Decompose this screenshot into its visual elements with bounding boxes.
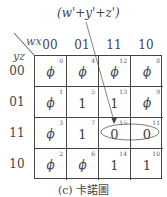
kmap-cell: 2ϕ [35,149,67,180]
row-header: 11 [0,126,34,140]
kmap-cell: 8ϕ [131,56,163,87]
kmap-cell: 4ϕ [67,56,99,87]
cell-value: 0 [99,127,130,142]
minterm-index: 6 [91,150,95,157]
cell-value: 1 [131,158,163,173]
group-annotation: (w'+y'+z') [57,6,120,20]
cell-value: 0 [131,127,163,142]
kmap-cell: 141 [99,149,131,180]
col-header: 10 [130,38,162,52]
cell-value: ϕ [67,65,98,79]
minterm-index: 0 [59,57,63,64]
kmap-cell: 71 [67,118,99,149]
minterm-index: 10 [152,150,160,157]
minterm-index: 11 [152,119,160,126]
kmap-cell: 101 [131,149,163,180]
cell-value: ϕ [131,65,163,79]
row-variable-label: yz [13,50,25,63]
cell-value: ϕ [35,96,66,110]
cell-value: ϕ [67,158,98,172]
kmap-cell: 1ϕ [35,87,67,118]
karnaugh-map-grid: 0ϕ 4ϕ 12ϕ 8ϕ 1ϕ 51 131 9ϕ 3ϕ 71 150 110 … [34,55,162,179]
minterm-index: 13 [119,88,127,95]
cell-value: 1 [99,96,130,111]
minterm-index: 4 [91,57,95,64]
kmap-cell: 110 [131,118,163,149]
minterm-index: 14 [119,150,127,157]
minterm-index: 8 [156,57,160,64]
minterm-index: 5 [91,88,95,95]
cell-value: ϕ [131,96,163,110]
cell-value: 1 [99,158,130,173]
cell-value: 1 [67,127,98,142]
figure-caption: (c) 卡諾圖 [0,181,167,197]
minterm-index: 15 [119,119,127,126]
minterm-index: 1 [59,88,63,95]
kmap-cell: 150 [99,118,131,149]
minterm-index: 9 [156,88,160,95]
kmap-cell: 12ϕ [99,56,131,87]
row-header: 01 [0,95,34,109]
minterm-index: 2 [59,150,63,157]
row-header: 00 [0,64,34,78]
minterm-index: 3 [59,119,63,126]
col-header: 01 [66,38,98,52]
cell-value: ϕ [35,65,66,79]
col-header: 00 [34,38,66,52]
cell-value: ϕ [99,65,130,79]
cell-value: ϕ [35,158,66,172]
cell-value: ϕ [35,127,66,141]
kmap-cell: 9ϕ [131,87,163,118]
kmap-cell: 3ϕ [35,118,67,149]
minterm-index: 7 [91,119,95,126]
kmap-cell: 0ϕ [35,56,67,87]
row-header: 10 [0,157,34,171]
cell-value: 1 [67,96,98,111]
minterm-index: 12 [119,57,127,64]
kmap-cell: 51 [67,87,99,118]
kmap-cell: 6ϕ [67,149,99,180]
col-header: 11 [98,38,130,52]
kmap-cell: 131 [99,87,131,118]
